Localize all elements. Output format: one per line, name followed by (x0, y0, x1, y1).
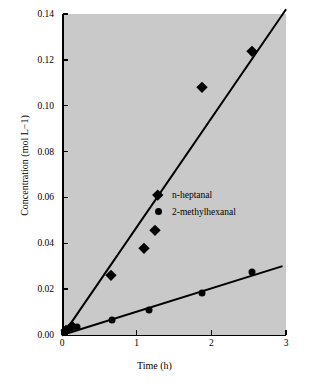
y-tick-label: 0.00 (37, 330, 54, 340)
legend-label: 2-methylhexanal (172, 207, 236, 217)
legend-label: n-heptanal (172, 190, 212, 200)
data-point-circle (199, 289, 206, 296)
x-tick (136, 330, 138, 335)
x-tick (285, 330, 287, 335)
y-tick-label: 0.14 (37, 9, 54, 19)
y-tick-label: 0.12 (37, 55, 54, 65)
y-tick (63, 288, 68, 290)
y-tick (63, 13, 68, 15)
y-tick (63, 59, 68, 61)
data-point-circle (249, 268, 256, 275)
y-tick-label: 0.02 (37, 284, 54, 294)
diamond-marker-icon (150, 191, 166, 199)
x-axis-line (62, 335, 286, 337)
y-tick (63, 243, 68, 245)
data-point-circle (146, 306, 153, 313)
circle-marker-icon (150, 208, 166, 215)
chart-figure: 0.000.020.040.060.080.100.120.14 0123 n-… (0, 0, 309, 384)
y-axis-title: Concentration (mol L−1) (19, 46, 30, 286)
legend-item-2-methylhexanal: 2-methylhexanal (150, 203, 236, 220)
x-tick-label: 0 (60, 338, 65, 348)
chart-legend: n-heptanal 2-methylhexanal (150, 186, 236, 220)
y-tick (63, 197, 68, 199)
y-tick-label: 0.06 (37, 192, 54, 202)
x-axis-title: Time (h) (0, 360, 309, 371)
data-point-circle (73, 323, 80, 330)
x-tick-label: 1 (134, 338, 139, 348)
y-tick (63, 151, 68, 153)
data-point-circle (109, 317, 116, 324)
x-tick (211, 330, 213, 335)
legend-item-n-heptanal: n-heptanal (150, 186, 236, 203)
y-tick-label: 0.04 (37, 238, 54, 248)
x-tick-label: 2 (209, 338, 214, 348)
x-tick-label: 3 (284, 338, 289, 348)
y-tick-label: 0.10 (37, 101, 54, 111)
y-tick-label: 0.08 (37, 147, 54, 157)
y-tick (63, 105, 68, 107)
